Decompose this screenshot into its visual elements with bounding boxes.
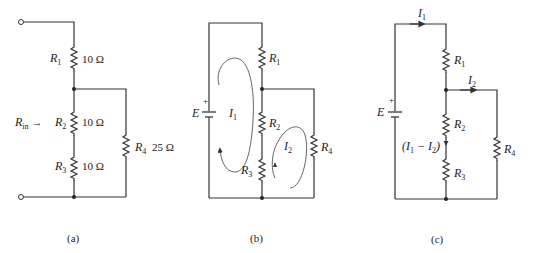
label-current-i1: I1	[418, 7, 426, 22]
arrow-icon: →	[32, 116, 43, 128]
label-loop-i1: I1	[229, 107, 237, 122]
caption-a: (a)	[67, 233, 79, 244]
loop-arrow-i2	[272, 127, 306, 188]
resistor-r1	[443, 47, 449, 73]
label-r3: R3	[55, 160, 66, 175]
resistor-r2	[71, 110, 77, 136]
resistor-r3	[259, 157, 265, 183]
label-source-e: E	[377, 106, 384, 118]
resistor-r3	[443, 157, 449, 183]
panel-c-circuit	[388, 24, 500, 201]
caption-c: (c)	[431, 234, 443, 245]
resistor-r4	[311, 133, 317, 159]
label-r2: R2	[55, 116, 66, 131]
label-r4: R4	[321, 141, 332, 156]
label-rin: Rin →	[15, 116, 43, 131]
terminal-top	[19, 20, 24, 25]
panel-b-circuit	[202, 23, 317, 200]
label-r2: R2	[269, 117, 280, 132]
label-current-i2: I2	[468, 74, 476, 89]
label-r1: R1	[269, 52, 280, 67]
value-r4: 25 Ω	[152, 142, 174, 153]
label-r1: R1	[454, 54, 465, 69]
resistor-r1	[259, 45, 265, 71]
plus-sign: +	[203, 97, 208, 106]
label-source-e: E	[192, 107, 199, 119]
current-arrow-diff	[444, 141, 449, 146]
plus-sign: +	[389, 96, 394, 105]
label-r2: R2	[454, 118, 465, 133]
resistor-r2	[259, 110, 265, 136]
label-r4: R4	[504, 143, 515, 158]
resistor-r4	[123, 133, 129, 159]
resistor-r3	[71, 155, 77, 181]
battery-e	[202, 112, 216, 117]
label-loop-i2: I2	[284, 140, 292, 155]
battery-e	[388, 112, 402, 117]
value-r3: 10 Ω	[82, 161, 104, 172]
label-current-difference: (I1 − I2)	[402, 140, 440, 155]
value-r2: 10 Ω	[82, 117, 104, 128]
label-r1: R1	[50, 52, 61, 67]
terminal-bottom	[19, 195, 24, 200]
resistor-r4	[494, 135, 500, 161]
label-r4: R4	[135, 141, 146, 156]
label-r3: R3	[454, 167, 465, 182]
label-r3: R3	[241, 164, 252, 179]
resistor-r1	[71, 45, 77, 71]
value-r1: 10 Ω	[82, 54, 104, 65]
resistor-r2	[443, 112, 449, 138]
caption-b: (b)	[250, 233, 263, 244]
panel-a-circuit	[19, 20, 130, 200]
